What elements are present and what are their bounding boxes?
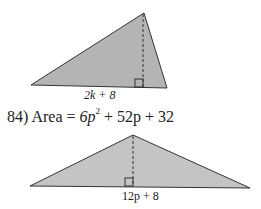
remaining-terms: + 52p + 32 xyxy=(104,108,174,125)
term-1: 6p xyxy=(80,108,96,125)
area-label: Area = xyxy=(31,108,75,125)
problem-84-heading: 84) Area = 6p2 + 52p + 32 xyxy=(7,108,174,126)
base-label-top: 2k + 8 xyxy=(84,88,115,103)
base-label-bottom: 12p + 8 xyxy=(122,189,159,204)
problem-number: 84) xyxy=(7,108,28,125)
exponent: 2 xyxy=(96,106,101,116)
triangle-bottom xyxy=(30,135,250,188)
triangle-top xyxy=(31,13,167,88)
figures xyxy=(0,0,261,209)
